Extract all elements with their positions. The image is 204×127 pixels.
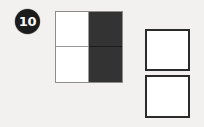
answer-option-2[interactable] bbox=[145, 75, 190, 118]
question-canvas: 10 bbox=[0, 0, 204, 127]
answer-option-1-fill bbox=[147, 31, 188, 69]
matrix-cell-top-left bbox=[56, 12, 89, 47]
matrix-figure bbox=[55, 11, 123, 83]
question-number-badge: 10 bbox=[15, 9, 40, 34]
matrix-cell-top-right bbox=[89, 12, 122, 47]
answer-option-2-fill bbox=[147, 77, 188, 116]
answer-option-1[interactable] bbox=[145, 29, 190, 71]
matrix-cell-bottom-left bbox=[56, 47, 89, 82]
question-number-label: 10 bbox=[19, 15, 36, 28]
matrix-cell-bottom-right bbox=[89, 47, 122, 82]
